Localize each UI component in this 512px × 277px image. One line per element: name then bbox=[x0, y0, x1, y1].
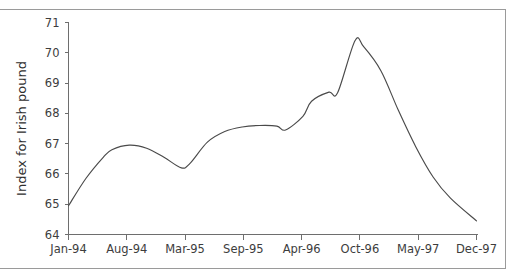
y-tick-label-68: 68 bbox=[45, 106, 60, 120]
y-tick-label-64: 64 bbox=[45, 228, 60, 242]
x-axis bbox=[69, 235, 478, 240]
y-axis-title-text: Index for Irish pound bbox=[14, 61, 29, 196]
y-axis-title: Index for Irish pound bbox=[14, 61, 29, 196]
y-axis bbox=[65, 23, 69, 235]
x-tick-label-Sep-95: Sep-95 bbox=[223, 242, 263, 256]
chart-figure: 6465666768697071 Jan-94Aug-94Mar-95Sep-9… bbox=[0, 0, 512, 277]
x-tick-label-Oct-96: Oct-96 bbox=[341, 242, 380, 256]
y-tick-label-66: 66 bbox=[45, 167, 60, 181]
y-tick-labels: 6465666768697071 bbox=[45, 16, 60, 242]
y-tick-label-67: 67 bbox=[45, 137, 60, 151]
data-series bbox=[69, 38, 477, 221]
x-tick-labels: Jan-94Aug-94Mar-95Sep-95Apr-96Oct-96May-… bbox=[49, 242, 497, 256]
line-chart-plot: 6465666768697071 Jan-94Aug-94Mar-95Sep-9… bbox=[0, 0, 512, 277]
series-line-0 bbox=[69, 38, 477, 221]
x-tick-label-Aug-94: Aug-94 bbox=[106, 242, 147, 256]
y-tick-label-70: 70 bbox=[45, 46, 60, 60]
x-tick-label-Mar-95: Mar-95 bbox=[165, 242, 205, 256]
x-tick-label-Apr-96: Apr-96 bbox=[283, 242, 321, 256]
x-tick-label-May-97: May-97 bbox=[397, 242, 439, 256]
y-tick-label-69: 69 bbox=[45, 76, 60, 90]
x-tick-label-Jan-94: Jan-94 bbox=[49, 242, 87, 256]
y-tick-label-71: 71 bbox=[45, 16, 60, 30]
x-tick-label-Dec-97: Dec-97 bbox=[456, 242, 497, 256]
y-tick-label-65: 65 bbox=[45, 197, 60, 211]
